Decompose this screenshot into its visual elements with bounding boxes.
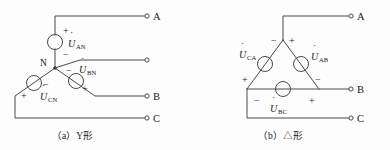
polarity-minus-ca: − xyxy=(271,35,277,46)
phasor-subscript-ab: AB xyxy=(319,56,329,63)
terminal-label-c-left: C xyxy=(153,113,160,124)
polarity-minus-bc: − xyxy=(254,95,260,106)
polarity-plus-an: + xyxy=(63,25,69,36)
phasor-label-bc: ˙ U BC xyxy=(270,95,287,115)
phasor-subscript-ca: CA xyxy=(247,54,256,61)
polarity-minus-an: − xyxy=(63,49,69,60)
phasor-symbol-bc: U xyxy=(270,103,278,114)
polarity-plus-bn: + xyxy=(82,83,88,94)
polarity-plus-bc: + xyxy=(309,95,315,106)
wire-c-phase-delta xyxy=(247,89,349,118)
phasor-symbol-ab: U xyxy=(311,51,319,62)
terminal-b-left[interactable] xyxy=(145,94,149,98)
caption-diagram-b: （b）△形 xyxy=(258,128,303,142)
polarity-minus-bn: − xyxy=(66,65,72,76)
phasor-symbol-an: U xyxy=(68,38,76,49)
phasor-symbol-cn: U xyxy=(40,91,48,102)
terminal-a-left[interactable] xyxy=(145,14,149,18)
phasor-label-bn: ˙ U BN xyxy=(79,56,96,76)
phasor-symbol-ca: U xyxy=(239,49,247,60)
phasor-label-an: ˙ U AN xyxy=(68,30,86,50)
phasor-subscript-bn: BN xyxy=(87,69,96,76)
terminal-c-left[interactable] xyxy=(145,116,149,120)
phasor-subscript-an: AN xyxy=(76,43,86,50)
polarity-minus-ab: − xyxy=(315,74,321,85)
polarity-plus-ab: + xyxy=(289,35,295,46)
phasor-subscript-bc: BC xyxy=(278,108,287,115)
neutral-node-label: N xyxy=(40,58,47,68)
terminal-label-a-right: A xyxy=(357,11,365,22)
terminal-c-right[interactable] xyxy=(349,116,353,120)
polarity-plus-cn: + xyxy=(21,90,27,101)
terminal-label-c-right: C xyxy=(357,113,364,124)
phasor-label-ab: ˙ U AB xyxy=(311,43,329,63)
terminal-label-a-left: A xyxy=(153,11,161,22)
phasor-label-ca: ˙ U CA xyxy=(239,41,256,61)
diagram-b-group: A B C − + + − − + ˙ U CA ˙ U AB xyxy=(239,11,365,124)
phasor-symbol-bn: U xyxy=(79,64,87,75)
three-phase-source-figure: A B C N + − − + − + ˙ U AN ˙ U xyxy=(0,0,390,150)
terminal-label-b-right: B xyxy=(357,84,364,95)
wire-ca-branch xyxy=(247,40,283,89)
terminal-label-b-left: B xyxy=(153,91,160,102)
diagram-a-group: A B C N + − − + − + ˙ U AN ˙ U xyxy=(15,11,161,124)
caption-diagram-a: （a）Y形 xyxy=(52,128,93,142)
phasor-subscript-cn: CN xyxy=(48,96,57,103)
polarity-plus-ca: + xyxy=(242,74,248,85)
neutral-node-dot xyxy=(53,66,57,70)
source-circle-an xyxy=(48,35,63,50)
terminal-a-right[interactable] xyxy=(349,14,353,18)
terminal-b-right[interactable] xyxy=(349,87,353,91)
terminal-unlabeled-left[interactable] xyxy=(145,58,149,62)
phasor-label-cn: ˙ U CN xyxy=(40,83,57,103)
